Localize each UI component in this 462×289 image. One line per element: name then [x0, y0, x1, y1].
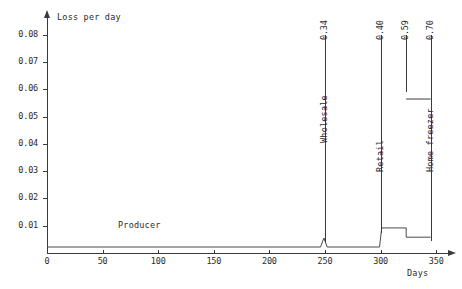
event-value-retail: 0.40 [376, 20, 385, 40]
x-tick-label: 0 [27, 257, 67, 266]
x-tick-mark [158, 250, 159, 254]
x-tick-label: 200 [249, 257, 289, 266]
x-axis-title: Days [407, 268, 428, 278]
event-value-unnamed-059: 0.59 [401, 20, 410, 40]
x-tick-mark [381, 250, 382, 254]
y-tick-label: 0.03 [2, 166, 38, 175]
x-tick-mark [103, 250, 104, 254]
series-label-producer: Producer [118, 220, 161, 230]
y-tick-mark [43, 89, 48, 90]
event-value-wholesale: 0.34 [320, 20, 329, 40]
event-value-home-freezer: 0.70 [426, 20, 435, 40]
event-name-wholesale: Wholesale [320, 96, 329, 144]
x-tick-mark [325, 250, 326, 254]
event-name-retail: Retail [376, 140, 385, 172]
event-name-home-freezer: Home freezer [426, 108, 435, 172]
y-tick-label: 0.06 [2, 84, 38, 93]
x-tick-label: 50 [83, 257, 123, 266]
y-tick-label: 0.02 [2, 193, 38, 202]
x-tick-mark [214, 250, 215, 254]
event-rule-retail [381, 35, 382, 233]
y-tick-label: 0.05 [2, 112, 38, 121]
series-plot [0, 0, 462, 289]
x-axis-line [47, 253, 449, 254]
y-tick-label: 0.07 [2, 57, 38, 66]
y-axis-title: Loss per day [57, 12, 121, 22]
x-axis-arrow-icon [448, 250, 456, 256]
x-tick-label: 300 [361, 257, 401, 266]
x-tick-label: 350 [416, 257, 456, 266]
y-tick-mark [43, 226, 48, 227]
y-tick-mark [43, 62, 48, 63]
x-tick-label: 150 [194, 257, 234, 266]
y-tick-mark [43, 198, 48, 199]
y-tick-label: 0.04 [2, 139, 38, 148]
x-tick-mark [436, 250, 437, 254]
x-tick-mark [269, 250, 270, 254]
x-tick-label: 100 [138, 257, 178, 266]
y-tick-mark [43, 144, 48, 145]
y-tick-mark [43, 171, 48, 172]
chart-canvas: Loss per day Days 0.010.020.030.040.050.… [0, 0, 462, 289]
y-tick-label: 0.08 [2, 30, 38, 39]
x-tick-mark [47, 250, 48, 254]
y-tick-mark [43, 117, 48, 118]
y-tick-label: 0.01 [2, 221, 38, 230]
event-rule-unnamed-059 [406, 35, 407, 92]
y-axis-line [47, 17, 48, 253]
y-tick-mark [43, 35, 48, 36]
y-axis-arrow-icon [44, 10, 50, 18]
series-line [47, 228, 431, 247]
x-tick-label: 250 [305, 257, 345, 266]
